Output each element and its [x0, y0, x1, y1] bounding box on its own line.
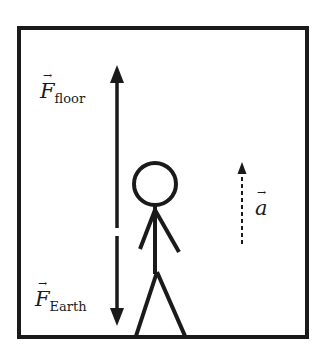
acceleration-arrow [238, 162, 247, 244]
figure-left-arm [140, 210, 155, 249]
figure-right-leg [157, 272, 185, 336]
force-earth-arrow [110, 236, 124, 326]
figure-right-arm [155, 210, 179, 252]
figure-left-leg [136, 272, 157, 336]
stick-figure [134, 163, 185, 336]
force-floor-label: →Ffloor [40, 79, 85, 106]
figure-head [134, 163, 176, 205]
acceleration-label: →a [255, 196, 268, 220]
force-earth-label: →FEarth [35, 287, 87, 314]
force-floor-arrow [110, 65, 124, 228]
